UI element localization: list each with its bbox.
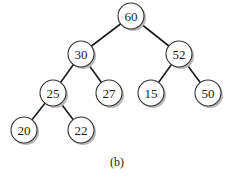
node-label: 50 (202, 86, 215, 101)
tree-edges (24, 16, 208, 130)
tree-node-50: 50 (195, 80, 223, 108)
figure-caption: (b) (110, 155, 124, 169)
node-label: 30 (75, 47, 88, 62)
node-label: 27 (103, 86, 117, 101)
node-label: 20 (18, 123, 31, 138)
node-label: 52 (173, 47, 186, 62)
tree-node-60: 60 (118, 3, 146, 31)
tree-node-52: 52 (166, 41, 194, 69)
node-label: 15 (145, 86, 158, 101)
tree-node-22: 22 (68, 117, 96, 145)
tree-node-15: 15 (138, 80, 166, 108)
node-label: 60 (125, 9, 138, 24)
tree-node-27: 27 (96, 80, 124, 108)
binary-tree-diagram: 603052252715502022 (b) (0, 0, 235, 179)
tree-nodes: 603052252715502022 (11, 3, 223, 145)
node-label: 25 (47, 86, 60, 101)
node-label: 22 (75, 123, 88, 138)
tree-node-20: 20 (11, 117, 39, 145)
